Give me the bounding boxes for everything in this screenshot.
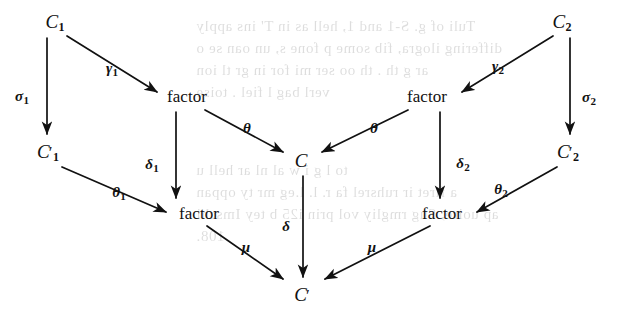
node-factorLR: factor: [422, 205, 462, 222]
edge-label-subscript: 2: [499, 64, 505, 76]
node-factorUL: factor: [167, 88, 207, 105]
bleedthrough-line: a firet ir ruhsrel fa r. l. l.eg mr ty o…: [196, 184, 457, 201]
edge-label-glyph: θ: [243, 120, 251, 136]
edge-label-theta1: θ1: [112, 185, 126, 202]
edge-label-glyph: δ: [282, 218, 290, 234]
bleedthrough-line: to l g i w al nl ar hell u: [196, 162, 348, 179]
node-C1prime: C′1: [37, 142, 59, 163]
bleedthrough-line: ar g th . th oo ser mi for in gr tl ion: [196, 62, 428, 79]
edge-label-theta_left: θ: [243, 121, 251, 136]
node-subscript: 2: [573, 150, 579, 164]
edge-label-delta2: δ2: [456, 156, 469, 173]
edge-label-mu_left: μ: [242, 240, 250, 255]
edge-label-glyph: γ: [106, 60, 112, 76]
node-C2: C2: [552, 12, 571, 33]
arrow-theta2: [477, 167, 557, 212]
edge-label-delta1: δ1: [145, 157, 158, 174]
page-bleedthrough-artifact: Tuli of g. S-1 and 1, hell as in T' ins …: [0, 0, 618, 323]
arrow-theta_right: [322, 110, 408, 152]
edge-label-gamma2: γ2: [492, 59, 504, 76]
edge-label-theta2: θ2: [494, 182, 508, 199]
arrow-layer: [0, 0, 618, 323]
edge-label-glyph: μ: [242, 239, 250, 255]
node-base: C: [552, 11, 565, 32]
node-base: C: [557, 141, 570, 162]
edge-label-glyph: μ: [368, 239, 376, 255]
edge-label-glyph: σ: [15, 88, 23, 104]
node-base: C: [294, 284, 307, 305]
arrow-gamma2: [462, 36, 553, 92]
edge-label-glyph: θ: [494, 181, 502, 197]
edge-label-glyph: δ: [145, 156, 153, 172]
node-prime-mark: ′: [569, 143, 573, 162]
node-factorUR: factor: [407, 88, 447, 105]
node-factorLL: factor: [179, 205, 219, 222]
edge-label-sigma1: σ1: [15, 89, 29, 106]
commutative-diagram: Tuli of g. S-1 and 1, hell as in T' ins …: [0, 0, 618, 323]
node-C1: C1: [45, 12, 64, 33]
node-subscript: 1: [59, 20, 65, 34]
arrow-mu_right: [325, 226, 430, 279]
node-subscript: 2: [566, 20, 572, 34]
edge-label-glyph: γ: [492, 58, 498, 74]
bleedthrough-line: Tuli of g. S-1 and 1, hell as in T' ins …: [196, 18, 475, 35]
edge-label-subscript: 2: [502, 187, 508, 199]
edge-label-glyph: δ: [456, 155, 464, 171]
edge-label-subscript: 2: [464, 161, 470, 173]
bleedthrough-line: differing ilogra, fib some p fone s, un …: [196, 40, 502, 57]
edge-label-glyph: θ: [112, 184, 120, 200]
edge-label-glyph: θ: [370, 120, 378, 136]
edge-label-mu_right: μ: [368, 240, 376, 255]
edge-label-subscript: 1: [23, 94, 29, 106]
edge-label-sigma2: σ2: [582, 90, 596, 107]
edge-label-subscript: 2: [590, 95, 596, 107]
bleedthrough-line: 108.: [196, 228, 225, 245]
edge-label-subscript: 1: [120, 190, 126, 202]
edge-label-subscript: 1: [113, 66, 119, 78]
node-base: C: [45, 11, 58, 32]
bleedthrough-line: verl bag l fiel . toise: [196, 84, 330, 101]
node-subscript: 1: [53, 150, 59, 164]
node-base: C: [37, 141, 50, 162]
node-C: C: [295, 151, 308, 170]
node-prime-mark: ′: [306, 286, 310, 305]
edge-label-gamma1: γ1: [106, 61, 118, 78]
edge-label-theta_right: θ: [370, 121, 378, 136]
node-base: C: [295, 150, 308, 171]
edge-label-delta: δ: [282, 219, 290, 234]
node-prime-mark: ′: [49, 143, 53, 162]
edge-label-subscript: 1: [153, 162, 159, 174]
edge-label-glyph: σ: [582, 89, 590, 105]
node-Cprime: C′: [294, 285, 309, 304]
node-C2prime: C′2: [557, 142, 579, 163]
